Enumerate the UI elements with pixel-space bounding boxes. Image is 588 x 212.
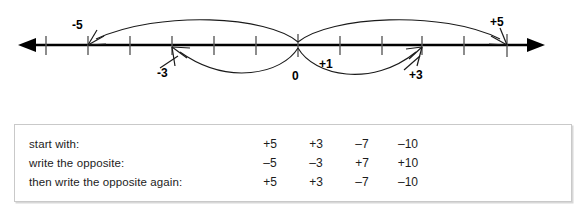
number-line-label-plus-five: +5 (490, 16, 504, 28)
number-line-label-minus-five: -5 (72, 19, 83, 31)
row-label: then write the opposite again: (29, 172, 247, 191)
table-cell: –7 (339, 172, 385, 191)
table-cell: –5 (247, 153, 293, 172)
table-cell: +3 (293, 172, 339, 191)
row-label: write the opposite: (29, 153, 247, 172)
arrowhead-minus-three-stroke2 (172, 47, 187, 58)
arc-zero-to-minus-five (96, 20, 298, 42)
axis-left-arrowhead (18, 38, 36, 52)
table-cell: –7 (339, 134, 385, 153)
table-cell: +10 (385, 153, 431, 172)
table-row: then write the opposite again: +5 +3 –7 … (29, 172, 431, 191)
number-line-label-plus-three: +3 (409, 69, 423, 81)
table-cell: +5 (247, 134, 293, 153)
table-cell: +3 (293, 134, 339, 153)
arrowhead-minus-three-stroke (172, 47, 190, 48)
number-line-label-plus-one: +1 (319, 58, 333, 70)
number-line-figure: -5 -3 0 +1 +3 +5 (0, 0, 588, 110)
opposites-table: start with: +5 +3 –7 –10 write the oppos… (29, 134, 431, 191)
arc-zero-to-plus-five (298, 20, 500, 42)
axis-right-arrowhead (527, 38, 545, 52)
number-line-label-zero: 0 (292, 70, 299, 82)
table-cell: –10 (385, 134, 431, 153)
number-line-label-minus-three: -3 (157, 67, 168, 79)
arc-zero-to-minus-three (180, 48, 298, 73)
row-label: start with: (29, 134, 247, 153)
leader-line-minus-three (172, 47, 175, 66)
table-row: start with: +5 +3 –7 –10 (29, 134, 431, 153)
table-row: write the opposite: –5 –3 +7 +10 (29, 153, 431, 172)
table-cell: –10 (385, 172, 431, 191)
table-cell: +7 (339, 153, 385, 172)
table-cell: +5 (247, 172, 293, 191)
table-cell: –3 (293, 153, 339, 172)
opposites-table-panel: start with: +5 +3 –7 –10 write the oppos… (14, 124, 572, 202)
arc-zero-to-plus-three (298, 48, 416, 74)
